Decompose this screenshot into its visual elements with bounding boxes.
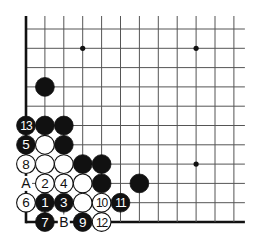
move-number-label: 13 <box>20 119 33 133</box>
black-stone-11: 11 <box>111 193 130 212</box>
move-number-label: 8 <box>22 157 30 172</box>
move-number-label: 10 <box>96 196 109 210</box>
black-stone <box>36 116 55 135</box>
black-stone-icon <box>92 174 111 193</box>
white-stone-12: 12 <box>92 213 111 232</box>
black-stone <box>54 116 73 135</box>
move-number-label: 5 <box>22 137 30 152</box>
move-number-label: 7 <box>41 215 49 230</box>
black-stone <box>36 78 55 97</box>
white-stone <box>54 155 73 174</box>
white-stone-icon <box>54 155 73 174</box>
move-number-label: 4 <box>60 176 68 191</box>
black-stone-7: 7 <box>36 213 55 232</box>
point-letter-label: B <box>59 214 68 230</box>
white-stone-2: 2 <box>36 174 55 193</box>
point-label-A: A <box>20 175 32 191</box>
black-stone-icon <box>92 155 111 174</box>
point-label-B: B <box>58 214 70 230</box>
white-stone-6: 6 <box>17 193 36 212</box>
move-number-label: 12 <box>96 216 109 230</box>
black-stone-1: 1 <box>36 193 55 212</box>
star-point-icon <box>80 46 85 51</box>
move-number-label: 9 <box>79 215 87 230</box>
black-stone-icon <box>130 174 149 193</box>
black-stone-icon <box>54 116 73 135</box>
white-stone <box>36 155 55 174</box>
white-stone-4: 4 <box>54 174 73 193</box>
point-letter-label: A <box>21 175 31 191</box>
white-stone-icon <box>73 193 92 212</box>
move-number-label: 11 <box>115 196 127 210</box>
white-stone-icon <box>36 135 55 154</box>
white-stone <box>36 135 55 154</box>
black-stone-3: 3 <box>54 193 73 212</box>
white-stone <box>73 174 92 193</box>
move-number-label: 1 <box>41 195 49 210</box>
go-board-diagram: 13582461310117912 AB <box>0 0 262 248</box>
black-stone-13: 13 <box>17 116 36 135</box>
black-stone-icon <box>36 116 55 135</box>
black-stone-9: 9 <box>73 213 92 232</box>
move-number-label: 2 <box>41 176 49 191</box>
black-stone-icon <box>73 155 92 174</box>
move-number-label: 3 <box>60 195 68 210</box>
black-stone <box>73 155 92 174</box>
white-stone <box>73 193 92 212</box>
star-point-icon <box>194 162 199 167</box>
white-stone-icon <box>36 155 55 174</box>
star-point-icon <box>194 46 199 51</box>
black-stone-icon <box>36 78 55 97</box>
go-board: 13582461310117912 AB <box>0 0 262 248</box>
white-stone-icon <box>73 174 92 193</box>
black-stone-5: 5 <box>17 135 36 154</box>
black-stone <box>54 135 73 154</box>
black-stone <box>92 174 111 193</box>
move-number-label: 6 <box>22 195 30 210</box>
white-stone-8: 8 <box>17 155 36 174</box>
black-stone <box>130 174 149 193</box>
black-stone-icon <box>54 135 73 154</box>
black-stone <box>92 155 111 174</box>
white-stone-10: 10 <box>92 193 111 212</box>
